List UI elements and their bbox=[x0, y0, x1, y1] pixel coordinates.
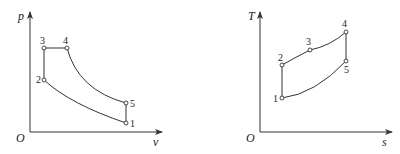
pv-point-label-5: 5 bbox=[130, 98, 135, 109]
pv-state-point-4 bbox=[65, 46, 69, 50]
pv-x-axis-label: v bbox=[153, 135, 159, 149]
pv-point-label-1: 1 bbox=[130, 118, 135, 129]
ts-point-label-1: 1 bbox=[273, 93, 278, 104]
ts-x-axis-label: s bbox=[382, 135, 387, 149]
pv-state-point-3 bbox=[42, 46, 46, 50]
pv-point-label-4: 4 bbox=[63, 35, 68, 46]
pv-state-point-1 bbox=[124, 121, 128, 125]
pv-point-label-2: 2 bbox=[36, 74, 41, 85]
ts-state-point-2 bbox=[280, 63, 284, 67]
pv-y-axis-label: p bbox=[17, 9, 24, 23]
pv-point-label-3: 3 bbox=[40, 35, 45, 46]
ts-point-label-3: 3 bbox=[306, 36, 311, 47]
pv-process-4-5-expansion bbox=[67, 48, 126, 103]
ts-state-point-5 bbox=[344, 59, 348, 63]
ts-process-2-3-isochoric bbox=[282, 50, 310, 65]
pv-process-1-2-compression bbox=[44, 80, 126, 123]
ts-y-axis-label: T bbox=[248, 9, 256, 23]
pv-state-point-2 bbox=[42, 78, 46, 82]
ts-state-point-1 bbox=[280, 96, 284, 100]
ts-origin-label: O bbox=[246, 131, 255, 145]
ts-process-5-1-isochoric bbox=[282, 61, 346, 98]
pv-state-point-5 bbox=[124, 101, 128, 105]
thermodynamic-cycle-figure: p v O 1 2 3 4 5 T s bbox=[0, 0, 400, 154]
ts-point-label-2: 2 bbox=[278, 52, 283, 63]
ts-diagram: T s O 1 2 3 4 5 bbox=[246, 9, 392, 149]
ts-point-label-5: 5 bbox=[344, 64, 349, 75]
pv-origin-label: O bbox=[16, 131, 25, 145]
ts-state-point-4 bbox=[344, 30, 348, 34]
pv-diagram: p v O 1 2 3 4 5 bbox=[16, 9, 162, 149]
cycle-diagrams-svg: p v O 1 2 3 4 5 T s bbox=[0, 0, 400, 154]
ts-process-3-4-isobaric bbox=[310, 32, 346, 50]
ts-point-label-4: 4 bbox=[342, 18, 347, 29]
ts-state-point-3 bbox=[308, 48, 312, 52]
